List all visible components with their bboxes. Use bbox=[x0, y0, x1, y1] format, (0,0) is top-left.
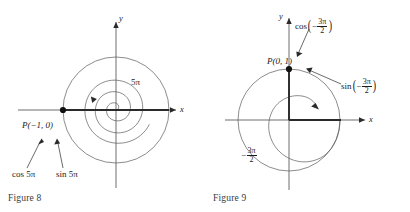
cos-leader-arrowhead bbox=[38, 139, 44, 145]
figure-8-x-axis-label: x bbox=[180, 104, 184, 114]
angle-fraction: 3π2 bbox=[247, 147, 257, 165]
sin-leader-arrowhead bbox=[54, 139, 60, 145]
figure-8-sin-label: sin 5π bbox=[56, 170, 78, 179]
cos-paren-close: ) bbox=[328, 19, 331, 33]
cos-leader-line bbox=[27, 141, 41, 168]
y-axis-arrowhead bbox=[286, 18, 291, 24]
figure-8-y-axis-label: y bbox=[119, 13, 123, 23]
x-axis-arrowhead bbox=[170, 107, 176, 112]
cos-leader-arrowhead bbox=[296, 52, 302, 57]
figure-9-angle-label: −3π2 bbox=[241, 147, 257, 165]
cos-sign: − bbox=[312, 21, 317, 31]
sin-leader-line bbox=[58, 141, 64, 168]
figure-9-y-axis-label: y bbox=[279, 11, 283, 21]
sin-paren-open: ( bbox=[352, 79, 355, 93]
angle-fraction-denominator: 2 bbox=[247, 156, 257, 164]
sin-fraction-denominator: 2 bbox=[362, 87, 372, 95]
sin-fraction: 3π2 bbox=[362, 78, 372, 96]
sin-function-name: sin bbox=[341, 81, 352, 91]
spiral-direction-arrowhead bbox=[311, 103, 319, 110]
sin-leader-line bbox=[309, 70, 341, 84]
x-axis-arrowhead bbox=[359, 117, 365, 122]
figure-9-sin-label: sin(−3π2) bbox=[341, 78, 377, 96]
figure-9-panel: y x P(0, 1) cos(−3π2) sin(−3π2) −3π2 Fig… bbox=[205, 0, 410, 212]
cos-fraction: 3π2 bbox=[317, 18, 327, 36]
cos-fraction-denominator: 2 bbox=[317, 27, 327, 35]
figure-9-caption: Figure 9 bbox=[213, 193, 247, 203]
figure-9-point-label: P(0, 1) bbox=[267, 57, 292, 66]
figure-8-cos-label: cos 5π bbox=[12, 170, 35, 179]
spiral-path bbox=[85, 80, 149, 143]
cos-paren-open: ( bbox=[308, 19, 311, 33]
figure-8-panel: y x P(−1, 0) 5π cos 5π sin 5π Figure 8 bbox=[0, 0, 205, 212]
point-P-marker bbox=[286, 66, 292, 72]
spiral-path bbox=[269, 96, 340, 162]
sin-sign: − bbox=[356, 81, 361, 91]
cos-function-name: cos bbox=[295, 21, 307, 31]
figure-8-point-label: P(−1, 0) bbox=[22, 121, 53, 130]
figure-8-axes bbox=[18, 22, 176, 188]
y-axis-arrowhead bbox=[113, 22, 118, 28]
point-P-marker bbox=[60, 107, 66, 113]
angle-sign: − bbox=[241, 150, 246, 160]
sin-paren-close: ) bbox=[373, 79, 376, 93]
spiral-direction-arrowhead bbox=[91, 97, 97, 103]
figure-9-cos-label: cos(−3π2) bbox=[295, 18, 332, 36]
figure-8-caption: Figure 8 bbox=[8, 193, 42, 203]
figure-8-graphic bbox=[0, 0, 205, 212]
figure-9-x-axis-label: x bbox=[369, 114, 373, 124]
figure-8-angle-label: 5π bbox=[131, 78, 140, 87]
